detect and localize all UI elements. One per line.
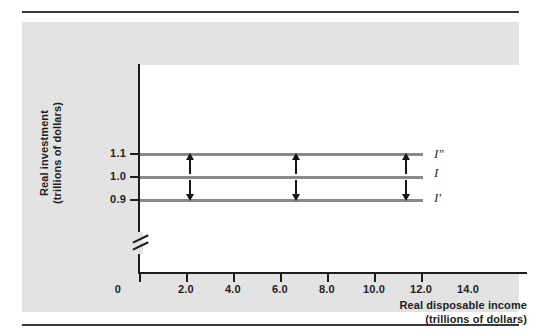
y-tick-2	[130, 176, 139, 178]
x-tick-4	[327, 274, 329, 282]
x-tick-label-6: 12.0	[401, 283, 441, 295]
y-tick-label-3: 0.9	[80, 193, 126, 205]
x-tick-2	[233, 274, 235, 282]
x-tick-0	[139, 274, 141, 282]
arrow-head-down-icon	[186, 194, 194, 201]
y-tick-3	[130, 199, 139, 201]
y-axis-title-line1: Real investment	[38, 73, 51, 233]
investment-line-i-prime	[140, 199, 423, 202]
x-tick-label-1: 2.0	[166, 283, 206, 295]
investment-schedule-figure: 1.1 1.0 0.9 0 2.0 4.0 6.0 8.0 10.0 12.0 …	[0, 0, 541, 335]
y-axis-title-line2: (trillions of dollars)	[51, 73, 64, 233]
shift-down-arrow-3	[400, 177, 411, 201]
shift-up-arrow-1	[184, 153, 195, 177]
x-tick-label-3: 6.0	[260, 283, 300, 295]
x-tick-3	[280, 274, 282, 282]
line-label-i-double-prime: I″	[434, 146, 444, 162]
y-tick-label-1: 1.1	[80, 147, 126, 159]
shift-up-arrow-3	[400, 153, 411, 177]
y-tick-label-wrap-3: 0.9	[80, 193, 126, 207]
arrow-shaft	[405, 156, 407, 174]
x-tick-label-2: 4.0	[213, 283, 253, 295]
chart-panel: 1.1 1.0 0.9 0 2.0 4.0 6.0 8.0 10.0 12.0 …	[22, 22, 519, 312]
x-tick-1	[186, 274, 188, 282]
arrow-shaft	[189, 156, 191, 174]
y-axis-break-mark	[132, 232, 148, 254]
y-tick-label-wrap-2: 1.0	[80, 170, 126, 184]
arrow-shaft	[295, 156, 297, 174]
y-tick-1	[130, 153, 139, 155]
x-tick-label-4: 8.0	[307, 283, 347, 295]
x-tick-6	[421, 274, 423, 282]
plot-canvas	[139, 65, 527, 274]
arrow-head-down-icon	[402, 194, 410, 201]
y-tick-label-wrap-1: 1.1	[80, 147, 126, 161]
x-tick-label-7: 14.0	[448, 283, 488, 295]
shift-down-arrow-1	[184, 177, 195, 201]
x-tick-label-5: 10.0	[354, 283, 394, 295]
arrow-head-down-icon	[292, 194, 300, 201]
shift-up-arrow-2	[290, 153, 301, 177]
x-axis-line	[138, 272, 527, 274]
figure-top-rule	[22, 11, 519, 13]
x-tick-5	[374, 274, 376, 282]
x-tick-label-0: 0	[98, 283, 138, 295]
investment-line-i	[140, 176, 423, 179]
x-axis-title: Real disposable income (trillions of dol…	[267, 298, 527, 326]
x-axis-title-line1: Real disposable income	[267, 298, 527, 312]
y-axis-title: Real investment (trillions of dollars)	[38, 73, 64, 233]
y-tick-label-2: 1.0	[80, 170, 126, 182]
line-label-i-prime: I′	[434, 190, 441, 206]
shift-down-arrow-2	[290, 177, 301, 201]
investment-line-i-double-prime	[140, 153, 423, 156]
line-label-i: I	[434, 165, 438, 181]
x-axis-title-line2: (trillions of dollars)	[267, 312, 527, 326]
